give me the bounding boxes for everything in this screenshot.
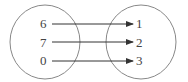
codomain-element-3: 3 xyxy=(136,53,143,68)
mapping-diagram-svg: 6 7 0 1 2 3 xyxy=(0,0,188,82)
domain-element-2: 7 xyxy=(40,35,47,50)
codomain-element-2: 2 xyxy=(136,35,143,50)
domain-element-1: 6 xyxy=(40,16,47,31)
codomain-element-1: 1 xyxy=(136,16,143,31)
domain-element-3: 0 xyxy=(40,53,47,68)
mapping-diagram: 6 7 0 1 2 3 xyxy=(0,0,188,82)
